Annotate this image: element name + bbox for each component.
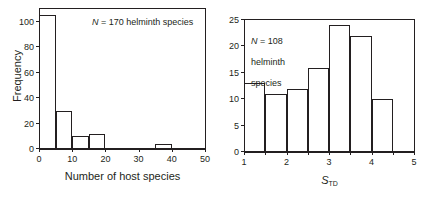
right-xtick-mark-1 (244, 152, 245, 155)
panel-left-host-species: Frequency 100 80 60 40 20 0 (0, 0, 211, 214)
right-xtick-mark-3 (329, 152, 330, 155)
right-xtick-label-2: 2 (277, 157, 297, 167)
right-bar-3.0-3.5 (329, 25, 350, 152)
left-xtick-mark-40 (172, 149, 173, 152)
right-ytick-label-15: 15 (217, 68, 239, 78)
right-xtick-label-1: 1 (234, 157, 254, 167)
right-annotation-n: N = 108 helminth species (251, 25, 285, 99)
left-bar-25-30 (122, 148, 139, 149)
left-ytick-label-0: 0 (12, 144, 34, 154)
right-ytick-label-0: 0 (217, 147, 239, 157)
left-ytick-label-40: 40 (12, 93, 34, 103)
right-xtick-mark-1.5 (265, 152, 266, 155)
left-bar-35-40 (155, 144, 172, 149)
figure-two-histograms: Frequency 100 80 60 40 20 0 (0, 0, 421, 214)
panel-right-std: 25 20 15 10 5 0 (211, 0, 421, 214)
left-x-axis-label: Number of host species (39, 170, 206, 182)
right-bar-2.0-2.5 (287, 89, 308, 152)
left-ytick-label-60: 60 (12, 68, 34, 78)
right-xtick-mark-5 (414, 152, 415, 155)
right-x-axis-label-symbol: S (321, 174, 328, 186)
right-annotation-line1: N = 108 (251, 36, 285, 47)
left-xtick-label-20: 20 (95, 154, 115, 164)
left-xtick-mark-10 (72, 149, 73, 152)
right-x-axis-label: STD (244, 174, 415, 186)
left-ytick-label-80: 80 (12, 42, 34, 52)
left-xtick-mark-0 (39, 149, 40, 152)
right-xtick-label-5: 5 (404, 157, 421, 167)
right-x-axis-label-subscript: TD (329, 180, 338, 187)
left-xtick-label-10: 10 (62, 154, 82, 164)
left-annotation-n-rest: = 170 helminth species (99, 17, 194, 27)
right-bar-4.0-4.5 (372, 99, 393, 152)
left-bar-5-10 (56, 111, 73, 149)
right-bar-4.5-5.0 (393, 151, 414, 152)
right-xtick-mark-4.5 (393, 152, 394, 155)
right-xtick-mark-3.5 (350, 152, 351, 155)
left-bar-15-20 (89, 134, 106, 149)
right-bar-2.5-3.0 (308, 68, 329, 153)
right-xtick-label-3: 3 (319, 157, 339, 167)
left-bar-40-45 (172, 148, 189, 149)
right-annotation-line3: species (251, 78, 285, 89)
left-annotation-n: N = 170 helminth species (92, 17, 193, 28)
right-ytick-label-25: 25 (217, 15, 239, 25)
left-xtick-label-30: 30 (129, 154, 149, 164)
right-bar-3.5-4.0 (350, 36, 371, 152)
right-annotation-n-rest: = 108 (258, 36, 283, 46)
left-xtick-mark-50 (205, 149, 206, 152)
left-bar-45-50 (188, 148, 205, 149)
right-annotation-line2: helminth (251, 57, 285, 68)
right-xtick-label-4: 4 (362, 157, 382, 167)
left-xtick-mark-30 (139, 149, 140, 152)
right-ytick-label-20: 20 (217, 41, 239, 51)
left-xtick-mark-20 (105, 149, 106, 152)
right-xtick-mark-4 (372, 152, 373, 155)
right-ytick-label-5: 5 (217, 121, 239, 131)
right-xtick-mark-2 (287, 152, 288, 155)
left-bar-0-5 (39, 15, 56, 149)
left-ytick-label-100: 100 (12, 17, 34, 27)
right-bar-1.5-2.0 (265, 94, 286, 152)
left-histogram-bars (39, 8, 206, 149)
left-xtick-label-0: 0 (29, 154, 49, 164)
left-xtick-label-40: 40 (162, 154, 182, 164)
left-ytick-label-20: 20 (12, 119, 34, 129)
right-xtick-mark-2.5 (308, 152, 309, 155)
left-bar-30-35 (139, 148, 156, 149)
left-bar-10-15 (72, 136, 89, 149)
right-ytick-label-10: 10 (217, 94, 239, 104)
left-bar-20-25 (105, 148, 122, 149)
